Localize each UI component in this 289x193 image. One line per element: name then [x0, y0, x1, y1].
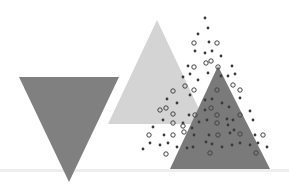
solid-dot	[211, 98, 214, 101]
solid-dot	[192, 146, 195, 149]
ring-dot	[181, 124, 185, 128]
solid-dot	[198, 121, 201, 124]
solid-dot	[149, 142, 152, 145]
solid-dot	[234, 73, 237, 76]
solid-dot	[205, 141, 208, 144]
solid-dot	[254, 134, 257, 137]
ring-dot	[261, 133, 265, 137]
solid-dot	[207, 27, 210, 30]
ring-dot	[192, 65, 196, 69]
solid-dot	[159, 144, 162, 147]
solid-dot	[182, 76, 185, 79]
solid-dot	[176, 146, 179, 149]
solid-dot	[231, 65, 234, 68]
ring-dot	[147, 133, 151, 137]
ring-dot	[171, 133, 175, 137]
solid-dot	[221, 102, 224, 105]
solid-dot	[197, 33, 200, 36]
solid-dot	[193, 134, 196, 137]
solid-dot	[204, 99, 207, 102]
solid-dot	[233, 129, 236, 132]
solid-dot	[194, 50, 197, 53]
solid-dot	[249, 110, 252, 113]
ring-dot	[238, 88, 242, 92]
solid-dot	[197, 79, 200, 82]
ground-line	[0, 169, 289, 172]
solid-dot	[206, 119, 209, 122]
solid-dot	[166, 98, 169, 101]
solid-dot	[221, 146, 224, 149]
solid-dot	[189, 73, 192, 76]
solid-dot	[211, 50, 214, 53]
solid-dot	[220, 75, 223, 78]
ring-dot	[182, 130, 186, 134]
solid-dot	[207, 72, 210, 75]
solid-dot	[191, 127, 194, 130]
solid-dot	[227, 75, 230, 78]
solid-dot	[162, 119, 165, 122]
solid-dot	[266, 146, 269, 149]
ring-dot	[215, 41, 219, 45]
solid-dot	[231, 144, 234, 147]
inverted-dark-triangle	[19, 77, 119, 182]
illustration-canvas: Abstract triangles with scattered dots	[0, 0, 289, 193]
solid-dot	[187, 65, 190, 68]
solid-dot	[204, 17, 207, 20]
solid-dot	[252, 119, 255, 122]
solid-dot	[226, 118, 229, 121]
solid-dot	[142, 148, 145, 151]
solid-dot	[163, 134, 166, 137]
solid-dot	[208, 134, 211, 137]
solid-dot	[227, 124, 230, 127]
solid-dot	[204, 52, 207, 55]
solid-dot	[189, 94, 192, 97]
solid-dot	[229, 132, 232, 135]
solid-dot	[208, 41, 211, 44]
solid-dot	[257, 142, 260, 145]
solid-dot	[211, 143, 214, 146]
solid-dot	[186, 147, 189, 150]
ring-dot	[192, 41, 196, 45]
triangles-artwork	[0, 0, 289, 193]
solid-dot	[188, 114, 191, 117]
triangles-group	[19, 20, 270, 182]
solid-dot	[239, 142, 242, 145]
ring-dot	[204, 61, 208, 65]
solid-dot	[249, 144, 252, 147]
solid-dot	[220, 55, 223, 58]
solid-dot	[204, 109, 207, 112]
light-triangle	[108, 20, 206, 124]
solid-dot	[239, 97, 242, 100]
ring-dot	[164, 152, 168, 156]
solid-dot	[232, 119, 235, 122]
solid-dot	[228, 106, 231, 109]
ring-dot	[192, 88, 196, 92]
solid-dot	[152, 126, 155, 129]
solid-dot	[176, 102, 179, 105]
ring-dot	[209, 59, 213, 63]
ring-dot	[231, 83, 235, 87]
solid-dot	[167, 142, 170, 145]
